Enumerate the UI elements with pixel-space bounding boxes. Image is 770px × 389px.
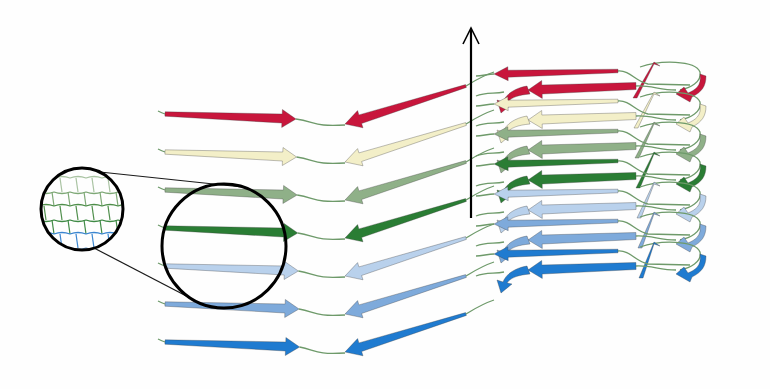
strand-cream-middle: [345, 123, 466, 166]
strand-red-front: [528, 81, 636, 99]
strand-mid-blue-loop: [640, 212, 706, 252]
turn-loop: [299, 309, 345, 315]
mesh-wall: [84, 220, 86, 234]
strand-green-middle: [345, 199, 466, 242]
mesh-wall: [116, 192, 118, 206]
mesh-wall: [52, 248, 54, 262]
turn-loop: [297, 157, 345, 163]
mesh-wall: [60, 178, 62, 192]
mesh-wall: [84, 192, 86, 206]
mesh-wall: [44, 234, 46, 248]
loop-segment: [476, 212, 504, 216]
loop-segment: [158, 301, 165, 304]
loop-segment: [476, 182, 504, 186]
mesh-wall: [100, 192, 102, 206]
loop-segment: [158, 149, 165, 152]
loop-segment: [158, 339, 165, 342]
left-sheet-strands: [158, 110, 345, 356]
turn-loop: [296, 119, 345, 125]
strand-green-front: [528, 171, 636, 189]
mesh-wall: [124, 178, 126, 192]
strand-blue-front: [528, 261, 636, 279]
curved-arrow: [676, 254, 706, 282]
loop-segment: [636, 266, 676, 270]
strand-red-loop: [640, 62, 706, 102]
mesh-wall: [76, 234, 78, 248]
strand-pale-blue-loop: [640, 182, 706, 222]
loop-segment: [476, 164, 494, 166]
turn-loop: [298, 271, 345, 277]
strand-green-left: [165, 224, 298, 242]
turn-loop: [298, 233, 345, 239]
magnifier-large-circle: [162, 184, 286, 308]
strand-cream-loop: [640, 92, 706, 132]
strand-sage-left: [165, 186, 297, 204]
mesh-wall: [76, 178, 78, 192]
magnifier-small-circle: [41, 168, 123, 250]
curved-arrow: [676, 104, 706, 132]
diagram-canvas: [0, 0, 770, 389]
strand-pale-blue-middle: [345, 237, 466, 280]
strand-pale-blue-back: [494, 187, 618, 201]
loop-segment: [476, 272, 504, 276]
curved-arrow: [676, 134, 706, 162]
strand-blue-middle: [345, 313, 466, 356]
mesh-wall: [92, 206, 94, 220]
strand-mid-blue-middle: [345, 275, 466, 318]
loop-segment: [158, 111, 165, 114]
magnifier-connector-bottom: [94, 248, 194, 300]
strand-red-middle: [345, 85, 466, 128]
loop-segment: [476, 134, 494, 136]
strand-cream-back: [494, 97, 618, 111]
loop-segment: [158, 187, 165, 190]
loop-segment: [476, 194, 494, 196]
loop-segment: [476, 122, 504, 126]
mesh-wall: [124, 234, 126, 248]
curved-arrow: [676, 164, 706, 192]
curved-arrow: [676, 224, 706, 252]
mesh-wall: [68, 220, 70, 234]
mesh-wall: [68, 192, 70, 206]
loop-segment: [476, 254, 494, 256]
mesh-wall: [100, 248, 102, 262]
mesh-wall: [92, 234, 94, 248]
strand-cream-left: [165, 148, 297, 166]
strand-sage-front: [528, 141, 636, 159]
strand-mid-blue-back: [494, 217, 618, 231]
mesh-wall: [92, 178, 94, 192]
loop-segment: [476, 104, 494, 106]
mesh-wall: [44, 206, 46, 220]
strand-mid-blue-front: [528, 231, 636, 249]
strand-green-loop: [640, 152, 706, 192]
turn-loop: [300, 347, 345, 353]
loop-segment: [476, 242, 504, 246]
mesh-wall: [52, 220, 54, 234]
mesh-wall: [60, 206, 62, 220]
strand-green-back: [494, 157, 618, 171]
strand-sage-loop: [640, 122, 706, 162]
mesh-wall: [76, 206, 78, 220]
strand-sage-middle: [345, 161, 466, 204]
mesh-wall: [108, 206, 110, 220]
strand-red-back: [494, 67, 618, 81]
mesh-wall: [68, 248, 70, 262]
strand-red-left: [165, 110, 296, 128]
turn-loop: [297, 195, 345, 201]
stacked-fibril-strands: [476, 62, 706, 293]
fibril-diagram: [0, 0, 770, 389]
strand-blue-loop: [640, 242, 706, 282]
strand-sage-back: [494, 127, 618, 141]
strand-blue-back: [494, 247, 618, 261]
strand-cream-front: [528, 111, 636, 129]
mesh-wall: [52, 192, 54, 206]
loop-outline: [640, 62, 700, 90]
strand-blue-curl: [497, 266, 530, 293]
strand-pale-blue-front: [528, 201, 636, 219]
curved-arrow: [676, 74, 706, 102]
mesh-row: [38, 177, 134, 179]
strand-blue-left: [165, 338, 300, 356]
link-loop: [466, 300, 494, 314]
loop-segment: [476, 92, 504, 96]
mesh-wall: [100, 220, 102, 234]
curved-arrow: [676, 194, 706, 222]
